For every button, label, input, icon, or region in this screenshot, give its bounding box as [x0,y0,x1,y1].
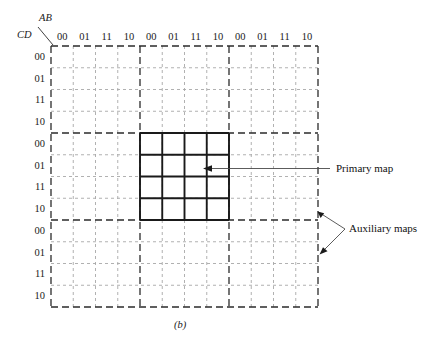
row-label: 11 [23,182,45,193]
figure-canvas [0,0,421,348]
column-label: 00 [229,32,251,43]
row-label: 01 [23,248,45,259]
column-label: 11 [96,32,118,43]
column-label: 00 [51,32,73,43]
row-label: 10 [23,204,45,215]
auxiliary-lower-leader-line [322,229,345,252]
column-label: 00 [140,32,162,43]
row-label: 10 [23,117,45,128]
column-label: 01 [251,32,273,43]
column-label: 01 [162,32,184,43]
figure-caption: (b) [174,320,186,331]
annotation-auxiliary-maps: Auxiliary maps [349,223,417,234]
annotation-primary-map: Primary map [336,163,393,174]
row-label: 10 [23,291,45,302]
axis-label-top: AB [39,13,52,24]
column-label: 10 [296,32,318,43]
row-label: 11 [23,269,45,280]
axis-label-left: CD [17,30,32,41]
column-label: 10 [207,32,229,43]
row-label: 01 [23,161,45,172]
column-label: 11 [274,32,296,43]
row-label: 00 [23,139,45,150]
auxiliary-upper-leader-line [320,213,345,229]
row-label: 11 [23,95,45,106]
row-label: 01 [23,74,45,85]
column-label: 10 [118,32,140,43]
karnaugh-map-figure: AB CD 000111100001111000011110 000111100… [0,0,421,348]
row-label: 00 [23,52,45,63]
column-label: 01 [73,32,95,43]
column-label: 11 [185,32,207,43]
row-label: 00 [23,226,45,237]
primary-map-outline [140,133,229,220]
